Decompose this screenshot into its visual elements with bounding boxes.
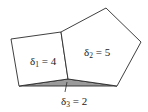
delta-value: 5 <box>105 46 111 58</box>
equals-sign: = <box>70 95 82 107</box>
equals-sign: = <box>39 55 51 67</box>
delta-3-label: δ3 = 2 <box>61 95 87 109</box>
delta-1-label: δ1 = 4 <box>30 55 57 69</box>
polygon-diagram: δ1 = 4 δ2 = 5 δ3 = 2 <box>0 0 148 112</box>
delta-value: 4 <box>51 55 57 67</box>
delta-value: 2 <box>82 95 88 107</box>
equals-sign: = <box>93 46 105 58</box>
delta-2-label: δ2 = 5 <box>84 46 111 60</box>
